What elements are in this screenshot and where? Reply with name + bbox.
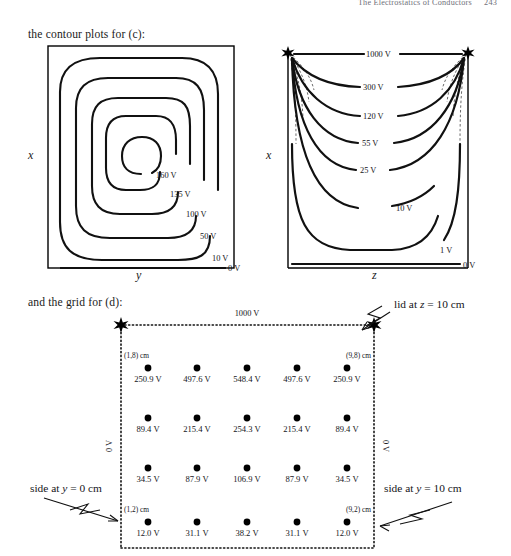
contour-label-55V: 55 V	[362, 139, 378, 148]
contour-1V-right	[444, 144, 460, 240]
grid-row-6: 89.4 V 215.4 V 254.3 V 215.4 V 89.4 V	[136, 415, 359, 434]
grid-value: 12.0 V	[136, 528, 160, 538]
contour-plots-row: 160 V 135 V 100 V 50 V 10 V 0 V x y	[0, 40, 511, 286]
contour-plot-xy: 160 V 135 V 100 V 50 V 10 V 0 V x y	[40, 40, 250, 286]
grid-value: 38.2 V	[235, 528, 259, 538]
contour-plot-xz: 1000 V 300 V 120 V 55 V 25 V 10 V 1 V 0 …	[272, 40, 488, 286]
annotation-side-left-post: = 0 cm	[67, 482, 102, 494]
annotation-side-left: side at y = 0 cm	[30, 482, 118, 521]
grid-value: 12.0 V	[335, 528, 359, 538]
grid-value: 89.4 V	[335, 424, 359, 434]
grid-value: 250.9 V	[333, 374, 361, 384]
contour-label-25V: 25 V	[360, 166, 376, 175]
contour-1V	[292, 144, 438, 250]
annotation-side-right-post: = 10 cm	[421, 482, 461, 494]
annotation-lid-pre: lid at	[394, 298, 420, 310]
contour-10V	[292, 58, 434, 208]
grid-node	[194, 415, 201, 422]
grid-node	[244, 415, 251, 422]
annotation-side-right-pre: side at	[384, 482, 416, 494]
grid-node	[294, 365, 301, 372]
grid-left-label: 0 V	[105, 440, 114, 452]
annotation-side-right-arrow	[380, 502, 452, 531]
coord-label-top-right: (9,8) cm	[346, 351, 371, 360]
grid-node	[344, 415, 351, 422]
coord-label-bottom-right: (9,2) cm	[346, 505, 371, 514]
grid-node	[344, 465, 351, 472]
contour-label-300V: 300 V	[363, 83, 384, 92]
contour-160V	[122, 137, 161, 174]
annotation-side-left-arrow	[44, 498, 118, 521]
contour-label-10V: 10 V	[212, 254, 228, 263]
grid-node	[294, 519, 301, 526]
grid-top-label: 1000 V	[235, 309, 260, 318]
grid-node	[194, 519, 201, 526]
grid-right-label: 0 V	[381, 440, 390, 452]
grid-value: 31.1 V	[285, 528, 309, 538]
running-head-title: The Electrostatics of Conductors	[358, 0, 472, 7]
grid-value: 106.9 V	[233, 474, 261, 484]
grid-value: 34.5 V	[136, 474, 160, 484]
contour-lines	[60, 58, 218, 260]
contour-label-50V: 50 V	[200, 232, 216, 241]
contour-label-0V: 0 V	[228, 264, 240, 273]
grid-node	[294, 415, 301, 422]
annotation-side-right-text: side at y = 10 cm	[384, 482, 462, 494]
grid-value: 250.9 V	[134, 374, 162, 384]
grid-value: 548.4 V	[233, 374, 261, 384]
grid-value: 497.6 V	[283, 374, 311, 384]
contour-label-135V: 135 V	[170, 190, 191, 199]
grid-node	[244, 465, 251, 472]
grid-node	[145, 365, 152, 372]
contour-label-100V: 100 V	[186, 210, 207, 219]
grid-node	[145, 519, 152, 526]
grid-node	[145, 415, 152, 422]
contour-label-120V: 120 V	[363, 112, 384, 121]
contour-label-160V: 160 V	[156, 171, 177, 180]
axis-label-x-left: x	[28, 148, 33, 163]
grid-node	[344, 519, 351, 526]
grid-row-4: 34.5 V 87.9 V 106.9 V 87.9 V 34.5 V	[136, 465, 359, 484]
grid-row-2: 12.0 V 31.1 V 38.2 V 31.1 V 12.0 V (1,2)…	[124, 505, 371, 538]
axis-label-z-bottom: z	[372, 268, 377, 283]
grid-boundary	[121, 325, 374, 548]
grid-value: 34.5 V	[335, 474, 359, 484]
potential-grid-figure: 1000 V 0 V 0 V 250.9 V 497.6 V 548.4 V 4…	[0, 296, 511, 556]
running-head-page: 243	[484, 0, 497, 7]
annotation-side-left-text: side at y = 0 cm	[30, 482, 102, 494]
annotation-side-left-pre: side at	[30, 482, 62, 494]
annotation-side-right: side at y = 10 cm	[380, 482, 462, 531]
annotation-lid-post: = 10 cm	[424, 298, 464, 310]
coord-label-top-left: (1,8) cm	[124, 351, 149, 360]
grid-value: 89.4 V	[136, 424, 160, 434]
grid-node	[145, 465, 152, 472]
grid-node	[244, 365, 251, 372]
axis-label-x-left: x	[266, 148, 271, 163]
axis-label-y-bottom: y	[136, 268, 141, 283]
grid-value: 215.4 V	[183, 424, 211, 434]
running-head: The Electrostatics of Conductors 243	[358, 0, 497, 7]
potential-grid-svg: 1000 V 0 V 0 V 250.9 V 497.6 V 548.4 V 4…	[0, 296, 511, 556]
contour-label-1000V: 1000 V	[366, 50, 391, 59]
grid-value: 87.9 V	[285, 474, 309, 484]
grid-value: 254.3 V	[233, 424, 261, 434]
grid-value: 215.4 V	[283, 424, 311, 434]
grid-value: 497.6 V	[183, 374, 211, 384]
grid-node	[294, 465, 301, 472]
annotation-lid-text: lid at z = 10 cm	[394, 298, 465, 310]
grid-node	[344, 365, 351, 372]
contour-xy-svg: 160 V 135 V 100 V 50 V 10 V 0 V	[40, 40, 250, 286]
grid-value: 31.1 V	[185, 528, 209, 538]
grid-node	[244, 519, 251, 526]
figure-page: The Electrostatics of Conductors 243 the…	[0, 0, 511, 556]
grid-value: 87.9 V	[185, 474, 209, 484]
contour-label-10V: 10 V	[396, 204, 412, 213]
contour-label-0V: 0 V	[463, 261, 475, 270]
contour-xz-svg: 1000 V 300 V 120 V 55 V 25 V 10 V 1 V 0 …	[272, 40, 488, 286]
coord-label-bottom-left: (1,2) cm	[124, 505, 149, 514]
grid-node	[194, 365, 201, 372]
grid-node	[194, 465, 201, 472]
grid-row-8: 250.9 V 497.6 V 548.4 V 497.6 V 250.9 V …	[124, 351, 371, 384]
contour-label-1V: 1 V	[440, 246, 452, 255]
